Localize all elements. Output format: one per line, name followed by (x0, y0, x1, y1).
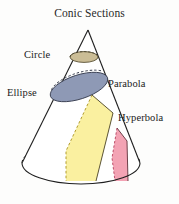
label-hyperbola: Hyperbola (118, 113, 163, 124)
conic-sections-figure: Conic Sections Circle Ellipse Parabola H… (0, 0, 179, 204)
label-circle: Circle (24, 50, 50, 61)
label-parabola: Parabola (108, 79, 146, 90)
label-ellipse: Ellipse (7, 88, 37, 99)
cone-diagram (0, 0, 179, 204)
figure-title: Conic Sections (0, 8, 179, 20)
